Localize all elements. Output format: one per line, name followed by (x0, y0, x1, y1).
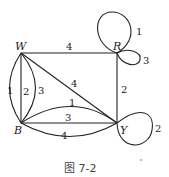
node-label-b: B (13, 124, 22, 137)
node-label-r: R (112, 40, 121, 53)
graph-diagram: 4 1 2 3 4 2 1 3 4 1 3 2 W R B Y 图 7-2 (0, 0, 169, 177)
edge-label-w-b-1: 1 (7, 85, 13, 96)
stray-dot (140, 159, 142, 161)
edge-label-b-y-3: 3 (65, 112, 71, 123)
edge-label-r-y: 2 (121, 84, 127, 95)
node-label-y: Y (120, 124, 129, 137)
edge-label-w-b-3: 3 (38, 85, 44, 96)
edge-label-w-y: 4 (71, 78, 77, 89)
figure-caption: 图 7-2 (64, 162, 96, 175)
edge-label-b-y-1: 1 (69, 97, 75, 108)
edge-label-w-r: 4 (66, 41, 72, 52)
edge-label-y-loop-2: 2 (155, 123, 161, 134)
edge-label-r-loop-3: 3 (143, 55, 149, 66)
edge-label-w-b-2: 2 (23, 86, 29, 97)
edge-b-y-4 (21, 123, 117, 137)
edge-label-b-y-4: 4 (61, 130, 67, 141)
edge-label-r-loop-1: 1 (136, 26, 142, 37)
node-label-w: W (15, 40, 28, 53)
